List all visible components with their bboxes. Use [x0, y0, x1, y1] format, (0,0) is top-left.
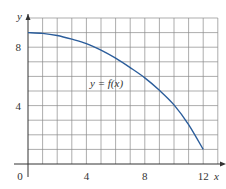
x-axis-arrow-icon	[220, 162, 226, 167]
chart: 0481248 x y y = f(x)	[0, 0, 226, 189]
x-tick-label: 0	[17, 170, 23, 182]
axes	[14, 14, 226, 177]
x-tick-label: 4	[84, 170, 90, 182]
x-tick-label: 12	[198, 170, 209, 182]
y-tick-label: 4	[16, 100, 22, 112]
x-axis-label: x	[213, 170, 219, 182]
y-axis-arrow-icon	[26, 14, 31, 20]
curve-label: y = f(x)	[89, 77, 123, 90]
y-axis-label: y	[16, 10, 22, 22]
x-tick-label: 8	[142, 170, 148, 182]
y-tick-label: 8	[16, 41, 22, 53]
grid-lines	[28, 18, 218, 164]
